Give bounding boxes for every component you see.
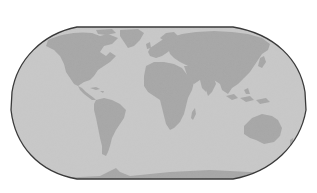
world-map — [0, 0, 317, 193]
